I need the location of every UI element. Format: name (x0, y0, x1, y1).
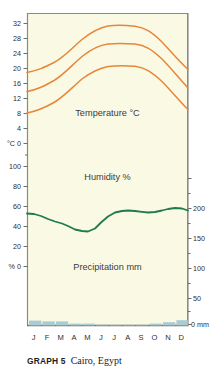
month-label-jan: J (27, 332, 40, 344)
tick-temp-24: 24 (4, 50, 21, 57)
tick-humidity-100: 100 (2, 163, 21, 170)
tick-humidity-20: 20 (2, 243, 21, 250)
humidity-band-label: Humidity % (27, 172, 188, 182)
month-label-apr: A (67, 332, 80, 344)
precipitation-band-label: Precipitation mm (27, 262, 188, 272)
tick-precip-200: 200 (193, 205, 205, 212)
month-axis: J F M A M J J A S O N D (27, 332, 188, 344)
temperature-min-curve (27, 66, 188, 113)
temperature-band-label: Temperature °C (27, 108, 188, 118)
tick-temp-12: 12 (4, 95, 21, 102)
month-label-aug: A (121, 332, 134, 344)
month-label-nov: N (161, 332, 174, 344)
tick-temp-28: 28 (4, 35, 21, 42)
month-label-jun: J (94, 332, 107, 344)
month-label-may: M (81, 332, 94, 344)
tick-precip-50: 50 (193, 295, 201, 302)
month-label-sep: S (134, 332, 147, 344)
figure-caption: GRAPH 5Cairo, Egypt (27, 355, 207, 366)
tick-precip-100: 100 (193, 265, 205, 272)
climate-graph-figure: 32 28 24 20 16 12 8 4 °C 0 100 80 60 40 … (0, 0, 212, 376)
caption-number: GRAPH 5 (27, 356, 66, 366)
temperature-max-curve (27, 25, 188, 72)
humidity-curve (27, 208, 188, 232)
month-label-dec: D (175, 332, 188, 344)
tick-temp-20: 20 (4, 65, 21, 72)
precipitation-bars (29, 320, 188, 325)
tick-humidity-40: 40 (2, 223, 21, 230)
month-label-oct: O (148, 332, 161, 344)
tick-humidity-zero: % 0 (0, 263, 21, 270)
month-label-feb: F (40, 332, 53, 344)
month-label-mar: M (54, 332, 67, 344)
month-label-jul: J (108, 332, 121, 344)
tick-temp-16: 16 (4, 80, 21, 87)
plot-canvas (0, 0, 212, 376)
tick-temp-32: 32 (4, 20, 21, 27)
tick-precip-150: 150 (193, 235, 205, 242)
caption-place: Cairo, Egypt (71, 355, 122, 366)
tick-temp-zero: °C 0 (0, 140, 21, 147)
tick-temp-4: 4 (4, 125, 21, 132)
tick-precip-zero: 0 mm (191, 321, 209, 328)
tick-temp-8: 8 (4, 110, 21, 117)
tick-humidity-60: 60 (2, 203, 21, 210)
tick-humidity-80: 80 (2, 183, 21, 190)
